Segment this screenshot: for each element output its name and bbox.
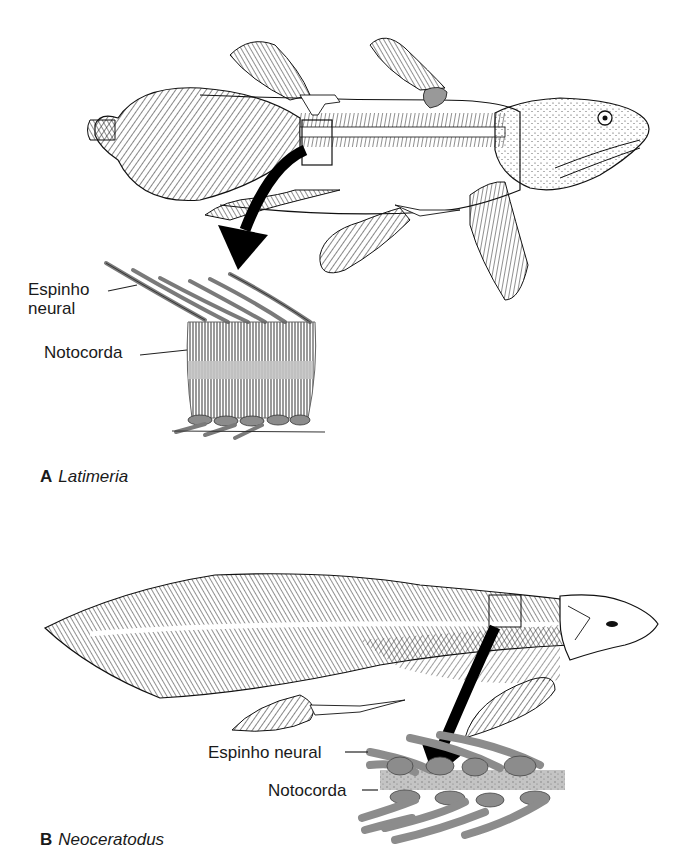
leader-neural-spine-a: [108, 285, 137, 291]
neoceratodus-pelvic-fin: [232, 695, 405, 731]
head: [495, 98, 649, 190]
label-neural-spine-a-line1: Espinho: [28, 280, 89, 299]
caption-panel-b: BNeoceratodus: [40, 830, 164, 850]
latimeria-fish-illustration: [0, 0, 680, 855]
label-neural-spine-b: Espinho neural: [208, 743, 321, 762]
genus-name-a: Latimeria: [58, 467, 128, 486]
neoceratodus-pectoral-fin: [465, 678, 555, 738]
leader-notochord-a: [140, 350, 187, 355]
neoceratodus-vertebral-detail: [362, 735, 565, 840]
panel-letter-b: B: [40, 830, 52, 849]
latimeria-notochord-detail: [172, 322, 325, 438]
neoceratodus-body: [45, 574, 658, 698]
panel-letter-a: A: [40, 467, 52, 486]
genus-name-b: Neoceratodus: [58, 830, 164, 849]
dorsal-fin-2: [370, 38, 447, 108]
latimeria-neural-spines: [106, 263, 310, 322]
label-neural-spine-a-line2: neural: [28, 299, 89, 318]
label-neural-spine-a: Espinho neural: [28, 280, 89, 318]
pectoral-fin: [470, 182, 528, 300]
eye-b: [606, 621, 618, 627]
label-notochord-a: Notocorda: [44, 343, 122, 362]
pelvic-fin: [320, 205, 460, 273]
caption-panel-a: ALatimeria: [40, 467, 128, 487]
label-notochord-b: Notocorda: [268, 781, 346, 800]
vertebral-column: [300, 113, 505, 147]
anal-fin: [205, 190, 340, 220]
